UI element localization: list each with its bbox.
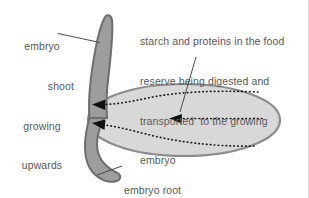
label-embryo-shoot: embryo shoot growing upwards: [6, 14, 78, 198]
diagram-figure: embryo shoot growing upwards starch and …: [0, 0, 309, 198]
label-embryo-shoot-line3: growing: [6, 120, 78, 133]
label-embryo-root: embryo root growing downwards: [124, 158, 274, 198]
label-embryo-root-line1: embryo root: [124, 184, 274, 197]
label-embryo-shoot-line4: upwards: [6, 159, 78, 172]
label-food-reserve-line3: transported to the growing: [140, 115, 300, 128]
label-embryo-shoot-line2: shoot: [6, 80, 78, 93]
label-food-reserve-line1: starch and proteins in the food: [140, 35, 300, 48]
label-food-reserve-line2: reserve being digested and: [140, 75, 300, 88]
label-embryo-shoot-line1: embryo: [6, 40, 78, 53]
